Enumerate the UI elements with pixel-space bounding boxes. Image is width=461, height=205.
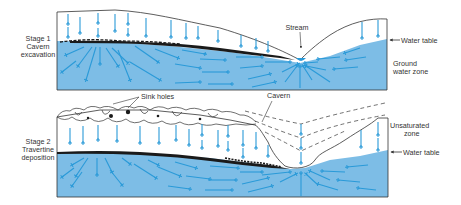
cavern-label: Cavern — [267, 91, 290, 100]
cavern-leader — [262, 101, 272, 122]
stage1-panel: Stage 1 Cavern excavation Stream Water t… — [21, 10, 438, 90]
stage2-title-line3: deposition — [22, 153, 55, 162]
unsaturated-label-line2: zone — [404, 129, 420, 138]
stream-icon — [296, 58, 306, 61]
karst-diagram: Stage 1 Cavern excavation Stream Water t… — [0, 0, 461, 205]
collapse-rubble — [57, 106, 256, 125]
stage2-water-table-label: Water table — [403, 148, 440, 157]
stage1-title-line3: excavation — [21, 50, 55, 59]
stage2-panel: Stage 2 Travertine deposition Sink holes… — [22, 91, 440, 197]
stage1-groundwater-zone — [57, 39, 387, 90]
sink-holes-label: Sink holes — [141, 92, 175, 101]
stage1-water-table-label: Water table — [401, 36, 438, 45]
stream-label: Stream — [285, 23, 308, 32]
sink-hole-markers — [87, 110, 202, 120]
cavern-dashed-lines — [245, 103, 385, 151]
stage1-zone-label-line2: water zone — [392, 67, 428, 76]
